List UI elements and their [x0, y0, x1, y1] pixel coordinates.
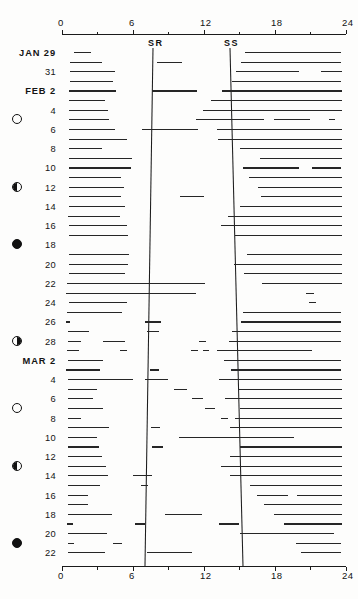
row-date-label: 14 [45, 202, 56, 212]
row-date-label: 10 [45, 163, 56, 173]
activity-bout-bar [69, 167, 131, 168]
activity-bout-bar [240, 408, 343, 409]
activity-bout-bar [258, 187, 342, 188]
activity-bout-bar [274, 119, 311, 120]
activity-bout-bar [241, 321, 342, 322]
moon-phase-first-quarter-icon [12, 182, 22, 192]
axis-tick-minor [310, 567, 311, 570]
activity-bout-bar [229, 341, 341, 342]
activity-bout-bar [68, 408, 104, 409]
activity-bout-bar [74, 52, 91, 53]
activity-bout-bar [68, 504, 88, 505]
axis-tick-minor [97, 567, 98, 570]
activity-bout-bar [67, 283, 205, 284]
activity-bout-bar [69, 110, 108, 111]
activity-bout-bar [230, 456, 342, 457]
activity-bout-bar [329, 119, 335, 120]
activity-bout-bar [66, 293, 196, 294]
activity-bout-bar [69, 235, 128, 236]
activity-bout-bar [69, 177, 121, 178]
activity-bout-bar [191, 350, 198, 351]
activity-bout-bar [68, 475, 108, 476]
moon-phase-full-icon [12, 538, 22, 548]
activity-bout-bar [228, 216, 343, 217]
actogram-row: 4 [0, 110, 358, 119]
activity-bout-bar [68, 552, 105, 553]
activity-bout-bar [147, 552, 192, 553]
activity-bout-bar [312, 167, 342, 168]
activity-bout-bar [68, 341, 81, 342]
activity-bout-bar [69, 158, 132, 159]
activity-bout-bar [69, 225, 127, 226]
axis-tick-label: 0 [58, 17, 64, 28]
axis-tick-label: 6 [129, 570, 135, 581]
activity-bout-bar [68, 514, 112, 515]
axis-tick-minor [168, 32, 169, 35]
actogram-row: 6 [0, 129, 358, 138]
row-date-label: 8 [51, 414, 56, 424]
activity-bout-bar [69, 90, 116, 91]
axis-tick-major [275, 30, 276, 34]
row-date-label: 20 [45, 260, 56, 270]
activity-bout-bar [70, 71, 115, 72]
activity-bout-bar [68, 389, 98, 390]
activity-bout-bar [145, 321, 162, 322]
row-date-label: 12 [45, 452, 56, 462]
row-date-label: 6 [51, 394, 56, 404]
activity-bout-bar [236, 71, 299, 72]
activity-bout-bar [135, 523, 144, 524]
activity-bout-bar [68, 418, 81, 419]
axis-tick-label: 24 [342, 570, 354, 581]
activity-bout-bar [68, 369, 100, 370]
activity-bout-bar [218, 139, 342, 140]
moon-phase-new-icon [12, 114, 22, 124]
activity-bout-bar [232, 331, 341, 332]
activity-bout-bar [142, 129, 198, 130]
axis-tick-minor [310, 32, 311, 35]
row-date-label: 24 [45, 298, 56, 308]
actogram-row: JAN 29 [0, 52, 358, 61]
activity-bout-bar [68, 427, 109, 428]
activity-bout-bar [222, 90, 343, 91]
axis-tick-label: 0 [58, 570, 64, 581]
row-date-label: 16 [45, 221, 56, 231]
activity-bout-bar [203, 110, 343, 111]
actogram-row: 16 [0, 225, 358, 234]
activity-bout-bar [147, 331, 159, 332]
axis-tick-minor [97, 32, 98, 35]
activity-bout-bar [103, 341, 124, 342]
activity-bout-bar [69, 302, 128, 303]
actogram-row: 6 [0, 398, 358, 407]
activity-bout-bar [69, 254, 129, 255]
activity-bout-bar [68, 466, 106, 467]
row-date-label: 16 [45, 491, 56, 501]
activity-bout-bar [306, 293, 314, 294]
actogram-row: 12 [0, 456, 358, 465]
top-axis-line [62, 34, 346, 35]
activity-bout-bar [192, 398, 203, 399]
activity-bout-bar [151, 427, 160, 428]
activity-bout-bar [69, 129, 115, 130]
activity-bout-bar [67, 523, 73, 524]
activity-bout-bar [230, 475, 342, 476]
activity-bout-bar [219, 379, 342, 380]
activity-bout-bar [240, 206, 343, 207]
activity-bout-bar [165, 514, 202, 515]
activity-bout-bar [264, 504, 342, 505]
actogram-row: 8 [0, 148, 358, 157]
activity-bout-bar [199, 341, 206, 342]
activity-bout-bar [243, 167, 299, 168]
row-date-label: 22 [45, 548, 56, 558]
activity-bout-bar [69, 187, 123, 188]
activity-bout-bar [145, 379, 169, 380]
actogram-row: 31 [0, 71, 358, 80]
activity-bout-bar [296, 543, 341, 544]
activity-bout-bar [234, 264, 343, 265]
actogram-row: 10 [0, 167, 358, 176]
axis-tick-major [346, 30, 347, 34]
activity-bout-bar [224, 360, 341, 361]
moon-phase-last-quarter-icon [12, 336, 22, 346]
actogram-row: MAR 2 [0, 360, 358, 369]
activity-bout-bar [211, 100, 342, 101]
activity-bout-bar [68, 437, 98, 438]
